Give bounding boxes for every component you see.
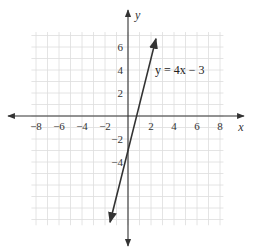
x-tick-label: 2 (148, 120, 154, 132)
y-axis-label: y (134, 8, 141, 22)
x-tick-label: −6 (53, 120, 65, 132)
y-tick-label: 6 (118, 41, 124, 53)
x-tick-label: 8 (217, 120, 223, 132)
y-tick-label: 4 (118, 64, 124, 76)
x-tick-label: −8 (30, 120, 42, 132)
y-tick-label: 2 (118, 87, 124, 99)
x-tick-label: 4 (171, 120, 177, 132)
x-tick-label: −2 (99, 120, 111, 132)
y-tick-label: −4 (111, 156, 123, 168)
coordinate-plane: −8−6−4−22468642−2−4xyy = 4x − 3 (0, 0, 254, 252)
graph: −8−6−4−22468642−2−4xyy = 4x − 3 x y y = … (0, 0, 254, 252)
equation-label: y = 4x − 3 (155, 63, 205, 77)
x-tick-label: −4 (76, 120, 88, 132)
x-tick-label: 6 (194, 120, 200, 132)
y-tick-label: −2 (111, 133, 123, 145)
x-axis-label: x (237, 120, 244, 134)
